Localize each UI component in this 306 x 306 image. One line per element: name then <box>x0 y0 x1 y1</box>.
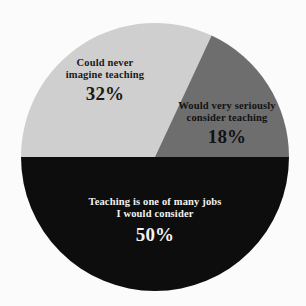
pie-chart-figure: Could never imagine teaching 32% Would v… <box>0 0 306 306</box>
pie-chart-svg <box>0 0 306 306</box>
pie-slice-teaching-one-of-many-jobs[interactable] <box>21 157 289 291</box>
